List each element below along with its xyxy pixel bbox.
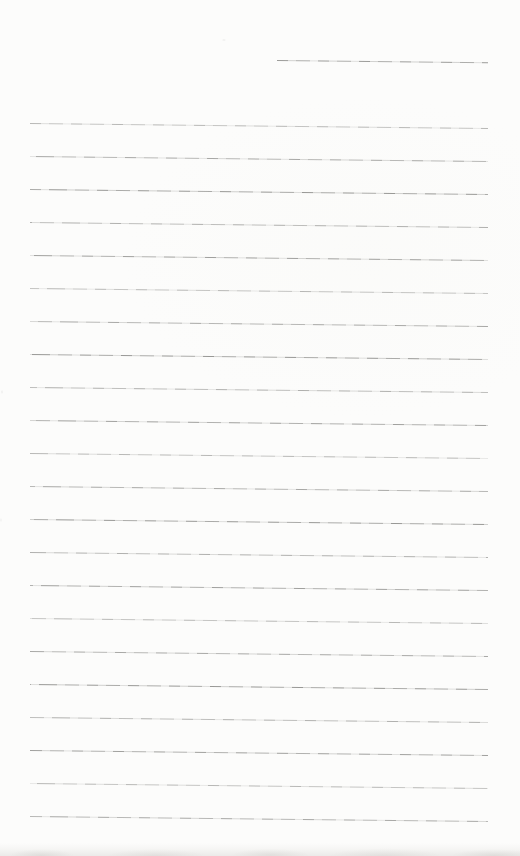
ruled-line: [30, 618, 488, 624]
ruled-line: [30, 816, 488, 822]
ruled-line: [30, 750, 488, 756]
ruled-line: [30, 255, 488, 261]
ruled-line: [30, 288, 488, 294]
ruled-line: [30, 156, 488, 162]
ruled-line: [30, 453, 488, 459]
ruled-line: [30, 321, 488, 327]
ruled-line: [30, 387, 488, 393]
notebook-page: [0, 0, 520, 856]
ruled-line: [30, 123, 488, 129]
ruled-line: [30, 684, 488, 690]
ruled-line: [30, 354, 488, 360]
ruled-line: [30, 189, 488, 195]
ruled-line: [30, 651, 488, 657]
ruled-line: [30, 519, 488, 525]
ruled-line: [30, 783, 488, 789]
ruled-line: [30, 420, 488, 426]
ruled-line: [30, 717, 488, 723]
ruled-line: [30, 222, 488, 228]
header-rule-line: [277, 60, 488, 63]
ruled-line: [30, 552, 488, 558]
page-bottom-edge: [0, 843, 520, 856]
ruled-line: [30, 585, 488, 591]
ruled-line: [30, 486, 488, 492]
